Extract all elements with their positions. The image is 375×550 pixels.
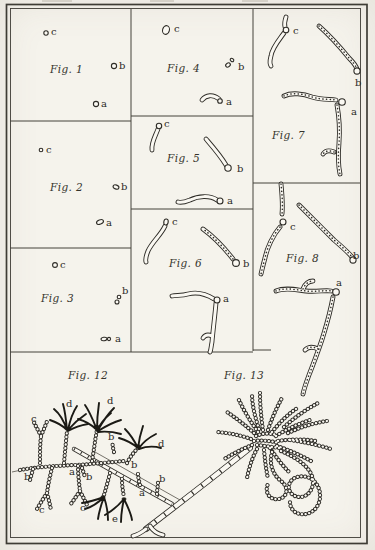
fig5-letter-b: b (237, 164, 243, 174)
fig6-letter-a: a (223, 294, 229, 304)
fig12-tuft-d2 (78, 403, 121, 434)
fig12-letter-b: b (131, 460, 137, 470)
fig8-drawing (261, 184, 356, 394)
fig12-letter-b: b (86, 472, 92, 482)
fig7-letter-c: c (293, 26, 299, 36)
fig3-label: Fig. 3 (41, 293, 74, 304)
fig12-letter-b: b (108, 432, 114, 442)
fig1-letter-c: c (51, 27, 57, 37)
fig7-label: Fig. 7 (272, 130, 305, 141)
fig5-letter-a: a (227, 196, 233, 206)
fig6-drawing (146, 219, 240, 352)
fig6-letter-b: b (243, 259, 249, 269)
fig6-letter-c: c (172, 217, 178, 227)
fig1-letter-a: a (101, 99, 107, 109)
plate-frame (7, 5, 368, 544)
fig5-letter-c: c (164, 119, 170, 129)
fig3-letter-c: c (60, 260, 66, 270)
fig12-letter-b: b (159, 474, 165, 484)
plate-drawing (0, 0, 375, 550)
fig1-label: Fig. 1 (50, 64, 83, 75)
fig2-letter-c: c (46, 145, 52, 155)
fig8-letter-a: a (336, 278, 342, 288)
fig2-letter-b: b (121, 182, 127, 192)
fig13-label: Fig. 13 (224, 370, 264, 381)
fig4-letter-b: b (238, 62, 244, 72)
fig12-letter-b: b (24, 472, 30, 482)
fig5-label: Fig. 5 (167, 153, 200, 164)
fig7-letter-b: b (355, 78, 361, 88)
fig2-label: Fig. 2 (50, 182, 83, 193)
fig12-tuft-e (82, 495, 132, 522)
fig3-letter-a: a (115, 334, 121, 344)
fig8-letter-b: b (353, 251, 359, 261)
fig7-drawing (270, 17, 360, 174)
fig8-label: Fig. 8 (286, 253, 319, 264)
fig12-letter-c: c (80, 503, 86, 513)
fig12-label: Fig. 12 (68, 370, 108, 381)
fig4-letter-c: c (174, 24, 180, 34)
fig12-letter-d: d (66, 399, 72, 409)
fig12-letter-d: d (158, 439, 164, 449)
fig12-letter-d: d (107, 396, 113, 406)
fig12-letter-c: c (31, 414, 37, 424)
fig12-tuft-d3 (119, 426, 161, 449)
fig12-letter-a: a (69, 467, 75, 477)
fig13-drawing (133, 392, 331, 536)
fig1-letter-b: b (119, 61, 125, 71)
fig12-drawing (12, 403, 180, 522)
fig3-letter-b: b (122, 286, 128, 296)
fig12-letter-c: c (39, 505, 45, 515)
fig12-letter-a: a (139, 488, 145, 498)
fig4-label: Fig. 4 (167, 63, 200, 74)
fig8-letter-c: c (290, 222, 296, 232)
fig4-letter-a: a (226, 97, 232, 107)
fig2-letter-a: a (106, 218, 112, 228)
fig12-letter-e: e (112, 514, 118, 524)
fig7-letter-a: a (351, 107, 357, 117)
fig6-label: Fig. 6 (169, 258, 202, 269)
illustration-plate: Fig. 1 Fig. 2 Fig. 3 Fig. 4 Fig. 5 Fig. … (0, 0, 375, 550)
